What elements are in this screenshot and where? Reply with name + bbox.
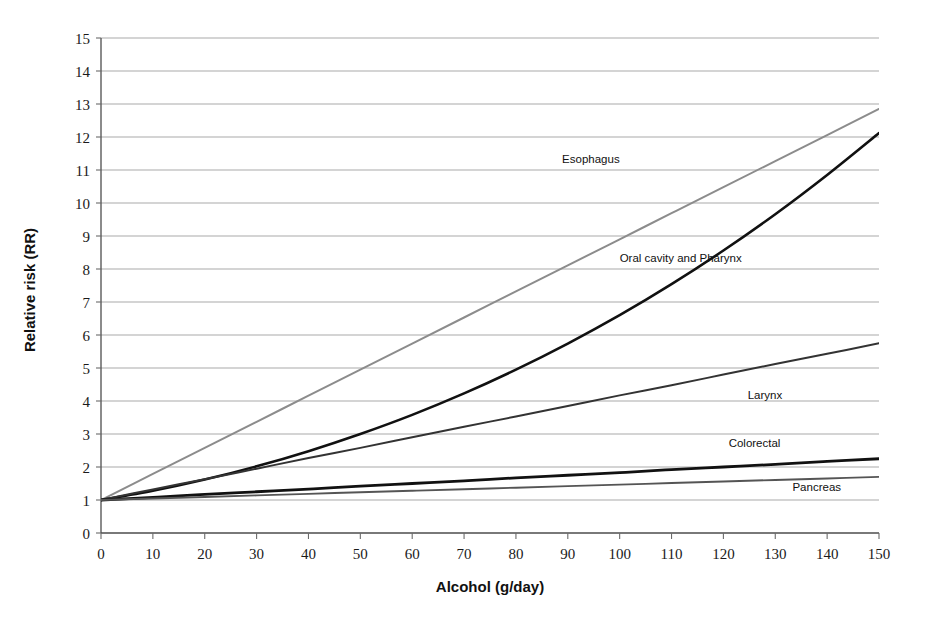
y-tick-label-1: 1 [83, 493, 91, 509]
y-tick-label-9: 9 [83, 229, 91, 245]
x-tick-label-30: 30 [249, 546, 264, 562]
x-tick-label-10: 10 [145, 546, 160, 562]
y-tick-label-14: 14 [75, 64, 91, 80]
x-tick-label-0: 0 [97, 546, 105, 562]
y-tick-label-6: 6 [83, 328, 91, 344]
y-tick-label-10: 10 [75, 196, 90, 212]
y-tick-label-11: 11 [76, 163, 90, 179]
x-tick-label-60: 60 [405, 546, 420, 562]
y-tick-label-3: 3 [83, 427, 91, 443]
relative-risk-line-chart: 0102030405060708090100110120130140150 01… [0, 0, 927, 628]
series-label-pancreas: Pancreas [792, 481, 841, 493]
series-label-colorectal: Colorectal [729, 437, 781, 449]
x-tick-label-90: 90 [560, 546, 575, 562]
gridlines [101, 38, 879, 500]
series-label-esophagus: Esophagus [562, 153, 620, 165]
x-tick-label-40: 40 [301, 546, 316, 562]
chart-container: 0102030405060708090100110120130140150 01… [0, 0, 927, 628]
x-tick-label-130: 130 [764, 546, 787, 562]
y-tick-label-13: 13 [75, 97, 90, 113]
series-label-larynx: Larynx [748, 389, 783, 401]
x-tick-label-110: 110 [661, 546, 683, 562]
x-tick-label-50: 50 [353, 546, 368, 562]
y-tick-label-2: 2 [83, 460, 91, 476]
x-tick-label-80: 80 [508, 546, 523, 562]
x-tick-label-150: 150 [868, 546, 891, 562]
x-tick-label-140: 140 [816, 546, 839, 562]
y-tick-label-12: 12 [75, 130, 90, 146]
axes [101, 38, 879, 533]
x-tick-label-120: 120 [712, 546, 735, 562]
x-axis-ticks: 0102030405060708090100110120130140150 [97, 533, 890, 562]
series-label-oral-cavity-and-pharynx: Oral cavity and Pharynx [620, 252, 742, 264]
y-tick-label-5: 5 [83, 361, 91, 377]
x-axis-title: Alcohol (g/day) [436, 578, 544, 595]
series-line-larynx [101, 343, 879, 500]
y-tick-label-7: 7 [83, 295, 91, 311]
y-tick-label-15: 15 [75, 31, 90, 47]
x-tick-label-20: 20 [197, 546, 212, 562]
y-axis-ticks: 0123456789101112131415 [75, 31, 101, 542]
y-tick-label-4: 4 [83, 394, 91, 410]
x-tick-label-70: 70 [457, 546, 472, 562]
y-axis-title: Relative risk (RR) [21, 228, 38, 352]
y-tick-label-0: 0 [83, 526, 91, 542]
x-tick-label-100: 100 [608, 546, 631, 562]
y-tick-label-8: 8 [83, 262, 91, 278]
series-line-colorectal [101, 459, 879, 500]
